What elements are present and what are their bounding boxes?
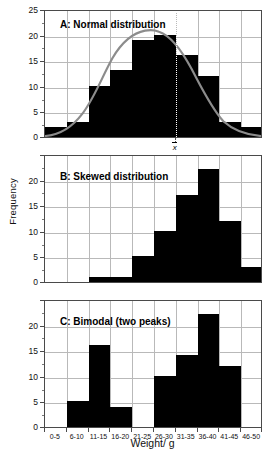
bar [67, 401, 89, 427]
bar [198, 169, 220, 282]
bar [132, 256, 154, 282]
mean-symbol-x-bar: x [165, 142, 185, 152]
bar [154, 376, 176, 427]
y-tick-label: 0 [33, 278, 38, 287]
mean-line-panel-a [176, 11, 177, 137]
bar [219, 221, 241, 282]
y-tick-label: 10 [29, 373, 38, 382]
bar [241, 267, 262, 282]
bar [154, 231, 176, 282]
y-tick-label: 10 [29, 83, 38, 92]
y-tick-label: 15 [29, 57, 38, 66]
y-tick-label: 0 [33, 423, 38, 432]
y-axis-title: Frequency [7, 157, 18, 247]
panel-b-skewed-distribution: B: Skewed distribution 20 15 10 5 0 [44, 155, 262, 283]
bar [198, 314, 220, 427]
y-tick-label: 20 [29, 32, 38, 41]
y-tick-label: 20 [29, 322, 38, 331]
y-tick-label: 5 [33, 398, 38, 407]
bar [110, 407, 132, 427]
bar [176, 355, 198, 427]
panel-b-title: B: Skewed distribution [60, 171, 168, 182]
figure-histograms-distribution-shapes: Frequency Weight/ g [0, 0, 270, 459]
y-tick-label: 10 [29, 228, 38, 237]
y-tick-label: 15 [29, 202, 38, 211]
bar [89, 345, 111, 427]
y-tick-label: 5 [33, 108, 38, 117]
y-tick-label: 25 [29, 6, 38, 15]
y-tick-label: 5 [33, 253, 38, 262]
panel-a-title: A: Normal distribution [60, 19, 166, 30]
y-tick-label: 0 [33, 133, 38, 142]
panel-a-normal-distribution: A: Normal distribution 25 20 15 10 5 0 x [44, 10, 262, 138]
panel-c-bimodal-distribution: C: Bimodal (two peaks) 20 15 10 5 0 0-5 … [44, 300, 262, 428]
x-tick-label: 46-50 [236, 433, 266, 440]
panel-c-title: C: Bimodal (two peaks) [60, 316, 171, 327]
y-tick-label: 15 [29, 347, 38, 356]
bar [219, 366, 241, 427]
y-tick-label: 20 [29, 177, 38, 186]
bar [176, 195, 198, 282]
bar [89, 277, 111, 282]
bar [110, 277, 132, 282]
